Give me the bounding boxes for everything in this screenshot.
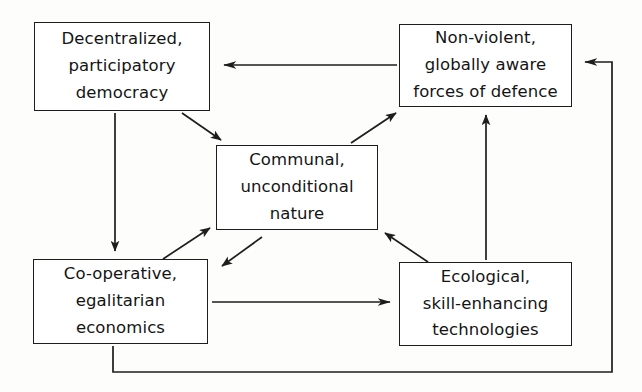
node-nonviolent-line-1: Non-violent, — [435, 25, 536, 52]
node-non-violent-forces-of-defence[interactable]: Non-violent, globally aware forces of de… — [399, 24, 572, 107]
node-cooperative-line-3: economics — [76, 315, 165, 342]
connector-communal-to-cooperative — [222, 237, 262, 266]
node-cooperative-line-2: egalitarian — [76, 288, 166, 315]
node-co-operative-egalitarian-economics[interactable]: Co-operative, egalitarian economics — [33, 259, 208, 344]
node-ecological-line-1: Ecological, — [441, 264, 530, 291]
node-cooperative-line-1: Co-operative, — [64, 261, 177, 288]
node-ecological-line-2: skill-enhancing — [423, 291, 549, 318]
connector-communal-to-nonviolent — [351, 113, 396, 143]
node-communal-line-2: unconditional — [240, 174, 353, 201]
node-decentralized-participatory-democracy[interactable]: Decentralized, participatory democracy — [34, 22, 210, 111]
node-decentralized-line-1: Decentralized, — [61, 26, 182, 53]
connector-cooperative-to-communal — [163, 228, 210, 259]
node-nonviolent-line-2: globally aware — [425, 52, 547, 79]
node-communal-line-1: Communal, — [249, 147, 345, 174]
node-communal-line-3: nature — [270, 201, 325, 228]
node-communal-unconditional-nature[interactable]: Communal, unconditional nature — [216, 145, 378, 230]
node-ecological-skill-enhancing-technologies[interactable]: Ecological, skill-enhancing technologies — [399, 262, 572, 346]
node-decentralized-line-2: participatory — [68, 53, 175, 80]
node-ecological-line-3: technologies — [432, 317, 538, 344]
flow-diagram: Decentralized, participatory democracy N… — [0, 0, 642, 392]
connector-decentralized-to-communal — [182, 113, 221, 140]
node-nonviolent-line-3: forces of defence — [413, 79, 558, 106]
node-decentralized-line-3: democracy — [76, 80, 169, 107]
connector-ecological-to-communal — [385, 233, 428, 262]
